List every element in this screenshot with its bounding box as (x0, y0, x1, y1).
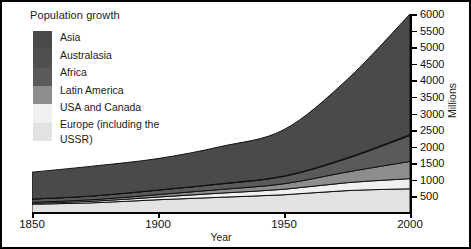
y-tick-label: 3500 (420, 91, 444, 103)
y-tick-mark (410, 64, 417, 66)
y-tick-label: 3000 (420, 108, 444, 120)
y-tick-label: 6000 (420, 8, 444, 20)
y-tick-label: 4500 (420, 58, 444, 70)
y-tick-label: 1000 (420, 174, 444, 186)
x-tick-label: 2000 (397, 218, 423, 230)
x-tick-label: 1850 (19, 218, 45, 230)
y-tick-mark (410, 97, 417, 99)
area-chart-svg (32, 14, 410, 213)
y-tick-label: 1500 (420, 157, 444, 169)
stacked-area-plot (32, 14, 410, 213)
y-tick-label: 2500 (420, 124, 444, 136)
y-tick-label: 5500 (420, 25, 444, 37)
x-axis-line (32, 212, 412, 214)
y-tick-mark (410, 147, 417, 149)
y-tick-mark (410, 47, 417, 49)
y-tick-mark (410, 14, 417, 16)
y-axis-label: Millions (446, 83, 458, 118)
x-tick-label: 1950 (271, 218, 297, 230)
y-tick-mark (410, 31, 417, 33)
y-tick-mark (410, 80, 417, 82)
y-tick-mark (410, 180, 417, 182)
y-tick-mark (410, 196, 417, 198)
x-axis-label: Year (210, 231, 231, 243)
population-growth-figure: Population growth AsiaAustralasiaAfricaL… (0, 0, 471, 249)
x-tick-label: 1900 (145, 218, 171, 230)
y-tick-label: 5000 (420, 41, 444, 53)
y-tick-label: 4000 (420, 74, 444, 86)
y-tick-mark (410, 163, 417, 165)
y-tick-label: 500 (420, 190, 438, 202)
y-tick-mark (410, 114, 417, 116)
y-tick-label: 2000 (420, 141, 444, 153)
y-tick-mark (410, 130, 417, 132)
